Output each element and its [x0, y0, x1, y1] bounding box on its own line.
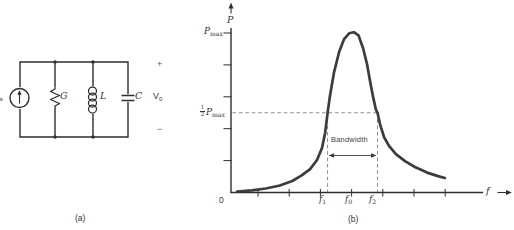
- resonance-curve-plot: [0, 0, 514, 230]
- output-voltage-label: V0: [153, 92, 162, 102]
- minus-sign: −: [157, 125, 162, 134]
- capacitor-label: C: [135, 91, 142, 101]
- f1-label: f1: [319, 195, 326, 205]
- origin-label: 0: [219, 196, 224, 205]
- inductor-label: L: [100, 91, 106, 101]
- half-p-max-label: 12Pmax: [190, 106, 225, 119]
- panel-b-caption: (b): [348, 215, 358, 224]
- resonance-curve: [237, 32, 445, 191]
- f2-label: f2: [369, 195, 376, 205]
- panel-a-caption: (a): [75, 214, 85, 223]
- f0-label: f0: [345, 195, 352, 205]
- conductance-label: G: [60, 91, 68, 101]
- plot-curve-and-guides: [224, 32, 446, 196]
- x-axis-arrow-icon: [506, 190, 512, 195]
- bandwidth-arrow-head-right: [371, 153, 377, 157]
- figure-canvas: Is G L C + V0 − (a) P Pmax 12Pmax Bandwi…: [0, 0, 514, 230]
- y-axis-arrow-icon: [229, 3, 234, 9]
- bandwidth-arrow-head-left: [329, 153, 335, 157]
- y-axis-label: P: [227, 15, 233, 25]
- source-current-label: Is: [0, 91, 3, 102]
- bandwidth-label: Bandwidth: [331, 136, 368, 144]
- p-max-label: Pmax: [200, 27, 223, 37]
- x-axis-label: f: [486, 186, 490, 196]
- plus-sign: +: [157, 60, 162, 69]
- one-half-fraction: 12: [200, 105, 205, 118]
